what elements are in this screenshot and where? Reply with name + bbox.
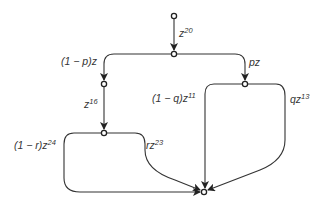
node-right1 bbox=[242, 81, 247, 86]
label-z20: z20 bbox=[178, 26, 193, 39]
label-qz13: qz13 bbox=[290, 92, 310, 105]
edge-left2-sink-a bbox=[64, 133, 200, 192]
node-sink bbox=[201, 189, 206, 194]
node-left2 bbox=[101, 130, 106, 135]
label-rz23: rz23 bbox=[146, 138, 164, 151]
label-1-q-z11: (1 − q)z11 bbox=[152, 91, 196, 104]
node-split1 bbox=[171, 51, 176, 56]
label-z16: z16 bbox=[83, 97, 98, 110]
edge-split1-right1 bbox=[177, 54, 245, 80]
label-1-r-z24: (1 − r)z24 bbox=[14, 138, 56, 151]
edge-right1-sink-b bbox=[208, 84, 285, 190]
label-1-p-z: (1 − p)z bbox=[61, 55, 98, 67]
node-source bbox=[171, 13, 176, 18]
edge-split1-left1 bbox=[104, 54, 171, 80]
node-left1 bbox=[101, 81, 106, 86]
edge-right1-sink-a bbox=[205, 84, 242, 188]
label-pz: pz bbox=[248, 56, 261, 68]
flow-graph: z20 (1 − p)z pz z16 (1 − q)z11 qz13 (1 −… bbox=[0, 0, 325, 209]
